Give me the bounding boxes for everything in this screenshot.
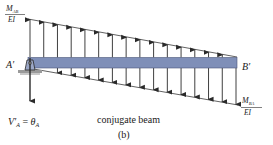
downward-load-arrows [57,68,236,104]
label-m-ab-den: EI [7,15,16,24]
label-m-ab-over-ei: MAB EI [5,4,25,24]
end-label-b: B′ [242,61,251,72]
support-label-a: A′ [5,59,15,70]
svg-text:MBA: MBA [241,96,254,106]
label-m-ba-den: EI [243,108,252,117]
label-m-ba-sub: BA [249,101,255,106]
caption: conjugate beam [97,114,160,125]
sublabel: (b) [118,129,130,141]
beam [28,58,237,69]
upper-load-line [28,19,237,57]
upward-load-arrows [30,20,222,58]
label-m-ab-sub: AB [12,9,19,14]
conjugate-beam-diagram: MAB EI A′ B′ MBA EI V′A = θA conjugate b… [0,0,273,145]
lower-load-line [28,68,238,105]
svg-text:MAB: MAB [5,4,18,14]
label-m-ba-over-ei: MBA EI [241,96,262,117]
reaction-label: V′A = θA [8,116,40,128]
